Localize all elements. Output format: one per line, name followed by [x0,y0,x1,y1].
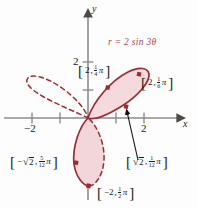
y-axis-label: y [92,4,96,14]
point-label-sqrt2-twelfth-pi: [ √2 , 1 12 π ] [126,155,168,169]
point-label-2-sixth-pi: [ 2, 1 6 π ] [141,76,173,90]
leader-line-sqrt2 [127,110,139,161]
equation-label: r = 2 sin 3θ [108,38,156,48]
pi-symbol: π [99,66,104,75]
point-marker-2-quarter-pi [105,85,110,90]
point-r-value: 2 [85,66,90,75]
point-marker-sqrt2-twelfth-pi [124,104,129,109]
plot-canvas [0,0,197,208]
point-theta-fraction: 5 12 [39,155,45,169]
point-theta-fraction: 1 12 [149,155,155,169]
point-label-neg2-half-pi: [ −2, 1 2 π ] [97,186,134,200]
upper-left-petal-outline-dashed [27,76,88,118]
pi-symbol: π [162,78,167,87]
point-marker-neg2-half-pi [86,183,91,188]
x-axis-label: x [183,119,187,129]
minus-sign: − [17,157,22,166]
point-theta-fraction: 1 2 [118,186,121,200]
pi-symbol: π [156,157,161,166]
point-r-value: −2 [104,188,114,197]
point-label-2-quarter-pi: [ 2, 1 4 π ] [78,64,110,78]
sqrt-expression: √2 [23,157,34,167]
x-tick-label--2: −2 [24,123,36,134]
point-label-neg-sqrt2-five-twelfths-pi: [ − √2 , 5 12 π ] [10,155,58,169]
polar-rose-figure: y x −2 2 2 r = 2 sin 3θ [ 2, 1 4 π ] [ 2… [0,0,197,208]
point-theta-fraction: 1 4 [94,64,97,78]
pi-symbol: π [46,157,51,166]
point-theta-fraction: 1 6 [157,76,160,90]
point-r-value: 2 [148,78,153,87]
x-tick-label-2: 2 [141,123,147,134]
sqrt-expression: √2 [133,157,144,167]
point-marker-neg-sqrt2-five-twelfths-pi [74,160,79,165]
pi-symbol: π [123,188,128,197]
